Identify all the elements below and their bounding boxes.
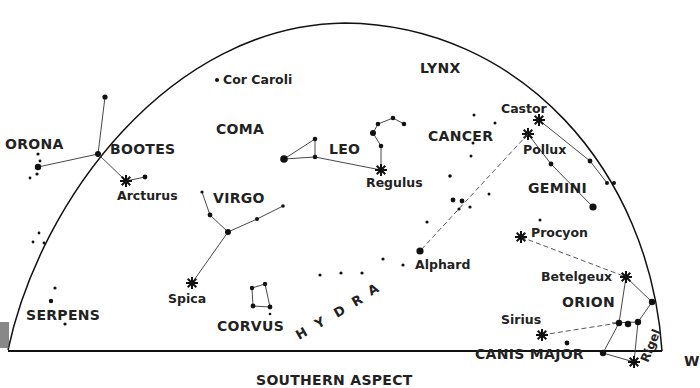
hydra-letter-a: A	[365, 281, 381, 299]
gemini-label: GEMINI	[528, 181, 587, 195]
spica-star	[186, 277, 198, 289]
coma-label: COMA	[216, 122, 264, 136]
orion-label: ORION	[562, 295, 615, 309]
hydra-label: H Y D R A	[293, 281, 381, 343]
rigel-label: Rigel	[638, 327, 664, 364]
regulus-label: Regulus	[366, 177, 423, 190]
cancer-label: CANCER	[428, 129, 493, 143]
sirius-star	[536, 329, 548, 341]
cor-caroli-label: Cor Caroli	[223, 74, 292, 87]
hydra-letter-d: D	[331, 302, 348, 320]
hydra-letter-h: H	[293, 324, 310, 342]
bootes-label: BOOTES	[110, 142, 175, 156]
lynx-label: LYNX	[420, 61, 461, 75]
hydra-letter-y: Y	[311, 314, 328, 332]
southern-aspect-caption: SOUTHERN ASPECT	[256, 373, 413, 387]
corona-stars	[29, 152, 42, 179]
leo-label: LEO	[329, 142, 360, 156]
west-compass-label: W	[684, 354, 700, 368]
canis-major-label: CANIS MAJOR	[475, 347, 584, 361]
procyon-star	[515, 231, 527, 243]
castor-label: Castor	[501, 103, 547, 116]
arcturus-star	[120, 175, 132, 187]
arcturus-label: Arcturus	[117, 190, 178, 203]
procyon-label: Procyon	[531, 227, 588, 240]
bootes-stars	[95, 94, 147, 179]
virgo-label: VIRGO	[213, 191, 265, 205]
corona-label: ORONA	[5, 137, 64, 151]
betelgeux-label: Betelgeux	[541, 271, 612, 284]
spica-label: Spica	[168, 293, 206, 306]
betelgeux-star	[620, 271, 632, 283]
alphard-label: Alphard	[415, 259, 470, 272]
serpens-label: SERPENS	[26, 308, 100, 322]
pollux-label: Pollux	[523, 144, 566, 157]
corvus-label: CORVUS	[217, 319, 284, 333]
sirius-label: Sirius	[501, 314, 541, 327]
hydra-letter-r: R	[349, 292, 365, 310]
